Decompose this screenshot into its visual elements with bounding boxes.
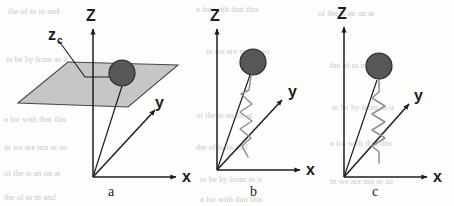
bg-text-line: the of to in and — [8, 6, 60, 16]
bg-text-line: to be by from as it — [200, 174, 263, 184]
x-axis-label-b: x — [306, 161, 315, 178]
bg-text-line: to be by from as it — [6, 54, 69, 64]
spring-zigzag-c — [372, 79, 385, 163]
zc-label-base: z — [48, 26, 56, 43]
bg-text-line: a for with that this — [4, 114, 66, 124]
bg-text-line: to be by from as it — [332, 102, 395, 112]
y-axis-line-a — [93, 110, 155, 177]
horizontal-plane — [18, 62, 178, 107]
bg-text-line: in we are not or so — [4, 142, 67, 152]
bg-text-line: the of to in and — [196, 142, 248, 152]
zc-label-subscript: c — [57, 35, 63, 46]
x-axis-label-c: x — [433, 168, 442, 185]
panel-caption-c: c — [372, 184, 378, 199]
figure-svg: the of to in and a for with that this of… — [0, 0, 454, 206]
z-axis-label-b: Z — [210, 7, 220, 24]
particle-sphere-c — [366, 53, 392, 79]
particle-sphere-a — [109, 60, 135, 86]
position-vector-b — [217, 75, 250, 170]
z-axis-label-c: Z — [337, 5, 347, 22]
panel-caption-a: a — [108, 184, 115, 199]
z-axis-label-a: Z — [86, 7, 96, 24]
y-axis-label-c: y — [414, 87, 423, 104]
position-vector-c — [344, 80, 377, 177]
y-axis-label-b: y — [288, 83, 297, 100]
bg-text-line: of the is an on at — [4, 168, 61, 178]
y-axis-label-a: y — [155, 94, 164, 111]
panel-caption-b: b — [250, 184, 257, 199]
bg-text-line: a for with that this — [196, 4, 258, 14]
particle-sphere-b — [240, 49, 266, 75]
panel-b: Z y x b — [210, 7, 315, 199]
figure-container: the of to in and a for with that this of… — [0, 0, 454, 206]
x-axis-label-a: x — [182, 168, 191, 185]
bg-text-line: the of to in and — [4, 192, 56, 202]
